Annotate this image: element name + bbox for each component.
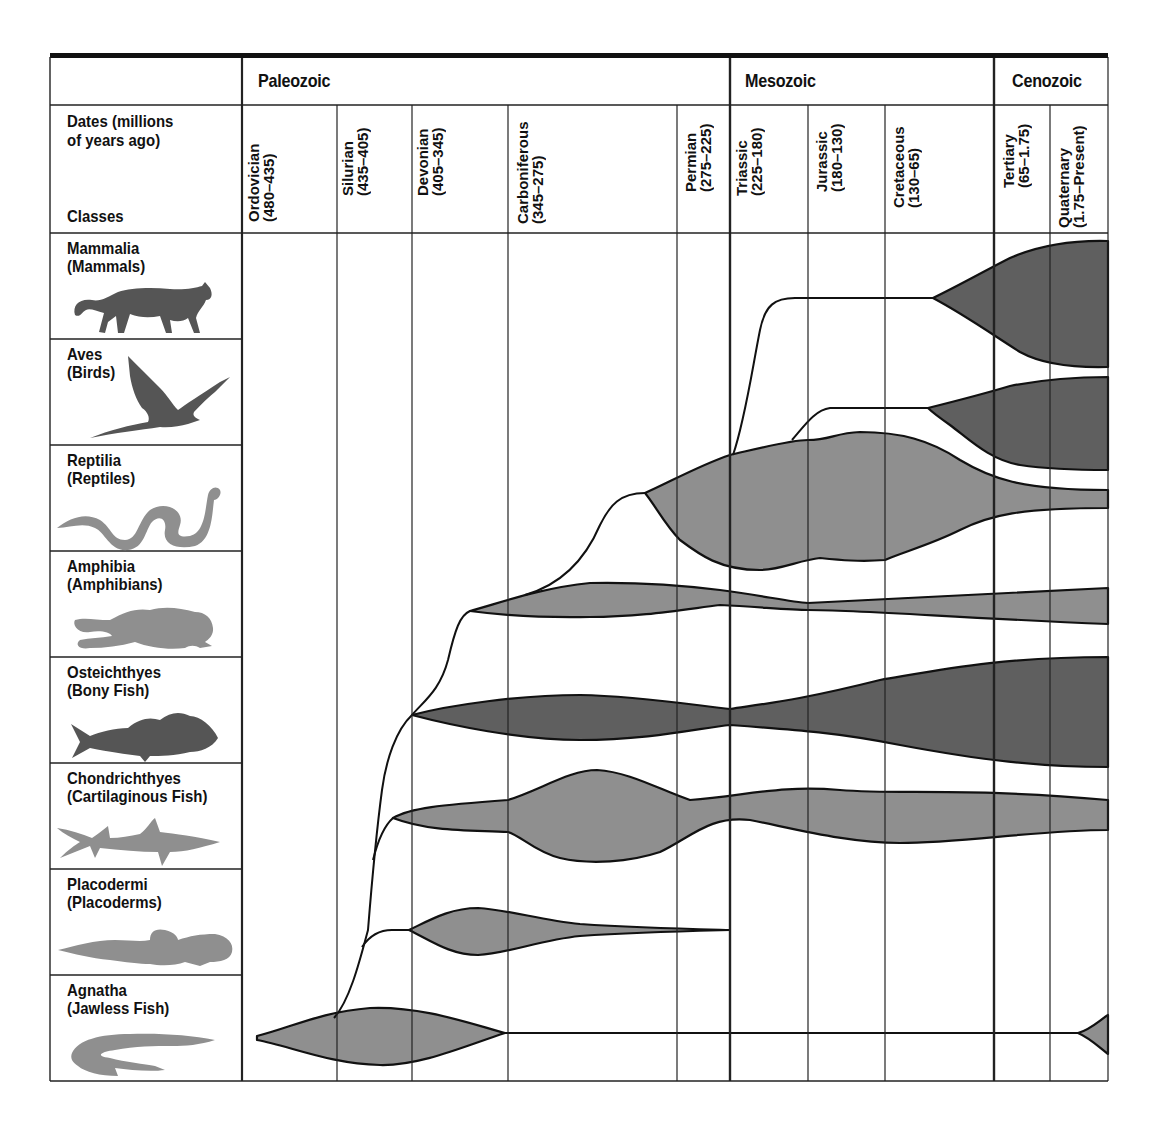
class-label-agnatha: Agnatha (Jawless Fish) <box>67 982 169 1018</box>
period-label-triassic: Triassic(225–180) <box>734 112 764 196</box>
class-name: Chondrichthyes <box>67 770 207 788</box>
period-name: Permian <box>683 112 698 192</box>
class-common-name: (Cartilaginous Fish) <box>67 788 207 806</box>
period-range: (405–345) <box>430 112 445 196</box>
era-label-paleozoic: Paleozoic <box>258 70 330 92</box>
period-name: Triassic <box>734 112 749 196</box>
class-label-aves: Aves (Birds) <box>67 346 115 382</box>
period-name: Quaternary <box>1056 110 1071 228</box>
class-label-amphibia: Amphibia (Amphibians) <box>67 558 163 594</box>
placoderm-silhouette-icon <box>58 929 232 966</box>
class-name: Reptilia <box>67 452 135 470</box>
class-name: Amphibia <box>67 558 163 576</box>
spindle-chondrichthyes <box>393 770 1108 862</box>
jawless-fish-silhouette-icon <box>71 1034 215 1076</box>
cat-silhouette-icon <box>74 282 211 333</box>
snake-silhouette-icon <box>57 488 221 551</box>
branch-connectors <box>334 298 933 1018</box>
class-label-reptilia: Reptilia (Reptiles) <box>67 452 135 488</box>
dates-label-line1: Dates (millions <box>67 112 173 131</box>
class-common-name: (Amphibians) <box>67 576 163 594</box>
dates-label: Dates (millions of years ago) <box>67 112 173 150</box>
period-name: Jurassic <box>814 112 829 192</box>
period-name: Ordovician <box>246 112 261 222</box>
period-range: (130–65) <box>906 112 921 208</box>
period-name: Cretaceous <box>891 112 906 208</box>
class-name: Placodermi <box>67 876 162 894</box>
period-range: (345–275) <box>530 112 545 224</box>
era-label-cenozoic: Cenozoic <box>1012 70 1082 92</box>
branch-mammalia <box>733 298 933 455</box>
period-label-jurassic: Jurassic(180–130) <box>814 112 844 192</box>
spindle-placodermi <box>409 908 730 955</box>
period-range: (225–180) <box>749 112 764 196</box>
class-label-chondrichthyes: Chondrichthyes (Cartilaginous Fish) <box>67 770 207 806</box>
class-label-mammalia: Mammalia (Mammals) <box>67 240 145 276</box>
spindle-agnatha-quaternary <box>1078 1015 1108 1054</box>
top-thick-border <box>50 53 1108 58</box>
evolution-spindle-chart <box>0 0 1159 1128</box>
period-range: (275–225) <box>698 112 713 192</box>
class-name: Aves <box>67 346 115 364</box>
period-label-quaternary: Quaternary(1.75–Present) <box>1056 110 1086 228</box>
period-name: Carboniferous <box>515 112 530 224</box>
period-label-ordovician: Ordovician(480–435) <box>246 112 276 222</box>
branch-amphibia <box>412 611 470 715</box>
class-name: Agnatha <box>67 982 169 1000</box>
period-label-permian: Permian(275–225) <box>683 112 713 192</box>
spindle-amphibia <box>470 583 1108 624</box>
class-common-name: (Bony Fish) <box>67 682 161 700</box>
period-range: (65–1.75) <box>1016 112 1031 188</box>
class-label-placodermi: Placodermi (Placoderms) <box>67 876 162 912</box>
spindle-osteichthyes <box>412 657 1108 767</box>
period-label-devonian: Devonian(405–345) <box>415 112 445 196</box>
class-label-osteichthyes: Osteichthyes (Bony Fish) <box>67 664 161 700</box>
class-name: Mammalia <box>67 240 145 258</box>
period-name: Tertiary <box>1001 112 1016 188</box>
era-label-mesozoic: Mesozoic <box>745 70 816 92</box>
period-range: (480–435) <box>261 112 276 222</box>
frog-silhouette-icon <box>74 608 213 649</box>
shark-silhouette-icon <box>57 818 220 866</box>
trunk-agnatha-to-osteichthyes <box>334 715 412 1018</box>
branch-placodermi <box>362 930 409 947</box>
period-label-silurian: Silurian(435–405) <box>340 112 370 196</box>
classes-header: Classes <box>67 207 124 226</box>
class-common-name: (Mammals) <box>67 258 145 276</box>
branch-reptilia <box>525 493 645 595</box>
bony-fish-silhouette-icon <box>71 713 218 762</box>
spindles <box>257 241 1108 1065</box>
class-common-name: (Jawless Fish) <box>67 1000 169 1018</box>
period-range: (180–130) <box>829 112 844 192</box>
class-name: Osteichthyes <box>67 664 161 682</box>
period-range: (1.75–Present) <box>1071 110 1086 228</box>
period-label-carboniferous: Carboniferous(345–275) <box>515 112 545 224</box>
class-common-name: (Reptiles) <box>67 470 135 488</box>
spindle-mammalia <box>933 241 1108 367</box>
period-name: Devonian <box>415 112 430 196</box>
period-range: (435–405) <box>355 112 370 196</box>
class-common-name: (Birds) <box>67 364 115 382</box>
period-label-tertiary: Tertiary(65–1.75) <box>1001 112 1031 188</box>
spindle-agnatha <box>257 1008 505 1065</box>
period-label-cretaceous: Cretaceous(130–65) <box>891 112 921 208</box>
dates-label-line2: of years ago) <box>67 131 173 150</box>
class-common-name: (Placoderms) <box>67 894 162 912</box>
period-name: Silurian <box>340 112 355 196</box>
